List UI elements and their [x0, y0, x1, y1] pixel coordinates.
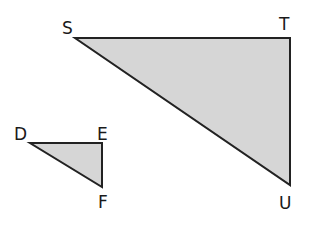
triangle-def: [30, 143, 102, 187]
vertex-label-e: E: [97, 124, 108, 144]
vertex-label-u: U: [279, 193, 291, 213]
vertex-label-f: F: [98, 192, 108, 212]
vertex-label-t: T: [278, 14, 290, 34]
triangle-stu: [75, 38, 290, 185]
vertex-label-d: D: [14, 124, 27, 144]
similar-triangles-diagram: S T U D E F: [0, 0, 326, 226]
vertex-label-s: S: [62, 18, 73, 38]
